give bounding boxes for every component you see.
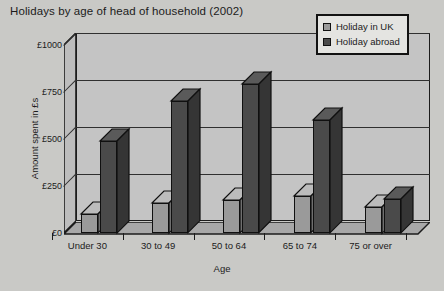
bar-side-face [117, 129, 131, 235]
x-axis-tick-mark [123, 233, 124, 240]
bar-front-face [223, 200, 240, 233]
bar-front-face [365, 207, 382, 233]
x-axis-tick-label: 65 to 74 [283, 240, 317, 251]
bar[interactable] [100, 141, 117, 233]
y-axis-tick-labels: £0£250£500£750£1000 [18, 0, 62, 291]
x-axis-tick-label: 30 to 49 [141, 240, 175, 251]
bar[interactable] [242, 84, 259, 233]
bar-front-face [171, 101, 188, 233]
x-axis-tick-mark [406, 233, 407, 240]
bar-side-face [188, 89, 202, 235]
bar-front-face [81, 214, 98, 233]
bar-front-face [294, 196, 311, 233]
bar[interactable] [365, 207, 382, 233]
legend-item[interactable]: Holiday abroad [323, 34, 400, 49]
bar-side-face [259, 72, 273, 235]
legend-item[interactable]: Holiday in UK [323, 19, 400, 34]
legend-label-abroad: Holiday abroad [336, 36, 400, 47]
legend-swatch-abroad [323, 38, 331, 46]
x-axis-tick-label: 75 or over [349, 240, 392, 251]
x-axis-tick-label: Under 30 [68, 240, 107, 251]
bar-side-face [330, 108, 344, 235]
bar-front-face [242, 84, 259, 233]
x-axis-tick-mark [335, 233, 336, 240]
bar[interactable] [171, 101, 188, 233]
y-axis-tick-label: £750 [42, 87, 62, 97]
y-axis-tick-label: £250 [42, 181, 62, 191]
x-axis-tick-mark [264, 233, 265, 240]
x-axis-tick-label: 50 to 64 [212, 240, 246, 251]
x-axis-tick-mark [52, 233, 53, 240]
bar-front-face [384, 199, 401, 233]
legend-label-uk: Holiday in UK [336, 21, 394, 32]
bar[interactable] [152, 203, 169, 233]
bar-front-face [152, 203, 169, 233]
plot-area [64, 33, 430, 233]
bar-front-face [313, 120, 330, 233]
legend: Holiday in UK Holiday abroad [316, 14, 409, 55]
y-axis-tick-label: £1000 [37, 40, 62, 50]
x-axis-tick-mark [194, 233, 195, 240]
bar[interactable] [313, 120, 330, 233]
bar[interactable] [81, 214, 98, 233]
bar[interactable] [223, 200, 240, 233]
bar[interactable] [294, 196, 311, 233]
y-axis-tick-label: £0 [52, 228, 62, 238]
x-axis-title: Age [0, 263, 444, 274]
bar-side-face [401, 187, 415, 235]
bar[interactable] [384, 199, 401, 233]
chart-screenshot: Holidays by age of head of household (20… [0, 0, 444, 291]
bar-front-face [100, 141, 117, 233]
legend-swatch-uk [323, 23, 331, 31]
y-axis-tick-label: £500 [42, 134, 62, 144]
